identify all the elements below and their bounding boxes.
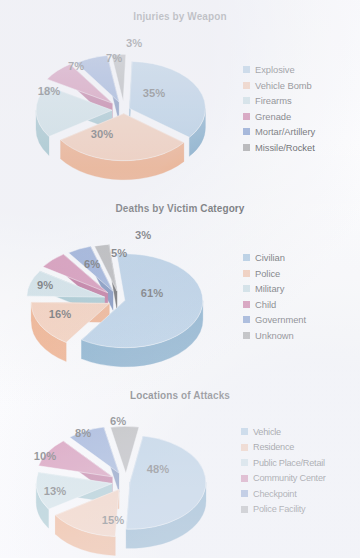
- legend-item: Mortar/Artillery: [243, 124, 360, 139]
- legend-item: Vehicle: [241, 424, 360, 439]
- slice-value-label: 35%: [143, 87, 165, 99]
- legend-swatch-icon: [243, 270, 250, 277]
- legend-swatch-icon: [241, 428, 248, 435]
- legend-item: Public Place/Retail: [241, 455, 360, 470]
- legend-label: Missile/Rocket: [255, 142, 315, 153]
- legend-label: Military: [255, 283, 284, 294]
- legend-label: Vehicle: [253, 427, 281, 437]
- slice-value-label: 16%: [49, 308, 71, 320]
- chart-deaths-by-victim-category: Deaths by Victim Category 61%16%9%6%5%3%…: [0, 190, 360, 376]
- legend-label: Vehicle Bomb: [255, 80, 312, 91]
- legend-swatch-icon: [241, 506, 248, 513]
- legend-swatch-icon: [243, 144, 250, 151]
- legend-item: Community Center: [241, 471, 360, 486]
- legend-item: Explosive: [243, 62, 360, 77]
- chart-locations-of-attacks: Locations of Attacks 48%15%13%10%8%6% Ve…: [0, 376, 360, 558]
- legend-swatch-icon: [243, 113, 250, 120]
- legend-swatch-icon: [243, 316, 250, 323]
- slice-value-label: 30%: [91, 128, 113, 140]
- pie-chart-locations-of-attacks: 48%15%13%10%8%6%: [2, 400, 240, 556]
- slice-value-label: 5%: [111, 247, 127, 259]
- legend-swatch-icon: [243, 254, 250, 261]
- legend-swatch-icon: [243, 332, 250, 339]
- legend-item: Civilian: [243, 250, 360, 265]
- legend-label: Residence: [253, 442, 294, 452]
- slice-value-label: 7%: [106, 52, 122, 64]
- legend-item: Unknown: [243, 328, 360, 343]
- legend-swatch-icon: [243, 82, 250, 89]
- legend-label: Community Center: [253, 473, 326, 483]
- chart-injuries-by-weapon: Injuries by Weapon 35%30%18%7%7%3% Explo…: [0, 0, 360, 190]
- legend-item: Missile/Rocket: [243, 140, 360, 155]
- legend-item: Police Facility: [241, 502, 360, 517]
- legend-deaths-by-victim-category: CivilianPoliceMilitaryChildGovernmentUnk…: [243, 250, 360, 343]
- legend-label: Grenade: [255, 111, 291, 122]
- legend-item: Military: [243, 281, 360, 296]
- legend-swatch-icon: [243, 66, 250, 73]
- slice-value-label: 6%: [110, 415, 126, 427]
- slice-value-label: 48%: [147, 463, 169, 475]
- legend-injuries-by-weapon: ExplosiveVehicle BombFirearmsGrenadeMort…: [243, 62, 360, 155]
- legend-label: Civilian: [255, 252, 285, 263]
- legend-item: Grenade: [243, 109, 360, 124]
- legend-swatch-icon: [243, 128, 250, 135]
- chart-title: Injuries by Weapon: [0, 11, 360, 22]
- legend-label: Checkpoint: [253, 489, 296, 499]
- legend-label: Unknown: [255, 330, 294, 341]
- pie-chart-injuries-by-weapon: 35%30%18%7%7%3%: [2, 22, 240, 182]
- legend-swatch-icon: [241, 459, 248, 466]
- legend-item: Residence: [241, 440, 360, 455]
- slice-value-label: 61%: [141, 287, 163, 299]
- legend-label: Police Facility: [253, 504, 305, 514]
- slice-value-label: 9%: [37, 279, 53, 291]
- legend-item: Firearms: [243, 93, 360, 108]
- legend-item: Government: [243, 312, 360, 327]
- legend-swatch-icon: [241, 475, 248, 482]
- legend-swatch-icon: [241, 444, 248, 451]
- slice-value-label: 8%: [75, 427, 91, 439]
- slice-value-label: 6%: [84, 258, 100, 270]
- slice-value-label: 3%: [135, 229, 151, 241]
- legend-locations-of-attacks: VehicleResidencePublic Place/RetailCommu…: [241, 424, 360, 517]
- legend-swatch-icon: [243, 285, 250, 292]
- slice-value-label: 7%: [68, 60, 84, 72]
- legend-label: Police: [255, 268, 280, 279]
- legend-label: Explosive: [255, 64, 295, 75]
- legend-label: Mortar/Artillery: [255, 126, 315, 137]
- legend-label: Government: [255, 314, 306, 325]
- legend-item: Vehicle Bomb: [243, 78, 360, 93]
- slice-value-label: 10%: [34, 450, 56, 462]
- pie-chart-deaths-by-victim-category: 61%16%9%6%5%3%: [2, 214, 240, 372]
- legend-label: Firearms: [255, 95, 292, 106]
- slice-value-label: 15%: [102, 514, 124, 526]
- legend-item: Child: [243, 297, 360, 312]
- slice-value-label: 18%: [38, 85, 60, 97]
- legend-swatch-icon: [243, 301, 250, 308]
- legend-item: Checkpoint: [241, 486, 360, 501]
- legend-label: Child: [255, 299, 276, 310]
- legend-swatch-icon: [241, 490, 248, 497]
- legend-swatch-icon: [243, 97, 250, 104]
- legend-item: Police: [243, 266, 360, 281]
- legend-label: Public Place/Retail: [253, 458, 325, 468]
- slice-value-label: 13%: [44, 485, 66, 497]
- slice-value-label: 3%: [126, 37, 142, 49]
- chart-title: Deaths by Victim Category: [0, 203, 360, 214]
